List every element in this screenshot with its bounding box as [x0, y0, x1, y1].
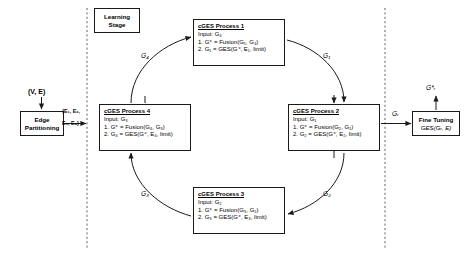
partition-output-label-line1: {E₁, E₂,: [62, 108, 80, 114]
cges-process-4-step1: 1. G⁺ = Fusion(G₄, G₃): [104, 124, 186, 132]
fine-tuning-box[interactable]: Fine Tuning GES(Gᵣ, E): [412, 111, 460, 136]
cges-process-4-title: cGES Process 4: [104, 108, 186, 116]
cges-process-1-box[interactable]: cGES Process 1 Input: G₄ 1. G⁺ = Fusion(…: [193, 19, 285, 66]
edge-label-to-process-1: G₄: [141, 52, 149, 59]
edge-partitioning-label-line2: Partitioning: [25, 124, 59, 131]
cges-process-2-box[interactable]: cGES Process 2 Input: G₁ 1. G⁺ = Fusion(…: [288, 104, 380, 151]
cges-process-4-input: Input: G₃: [104, 116, 186, 124]
fine-tuning-title: Fine Tuning: [419, 116, 454, 123]
input-graph-label: (V, E): [28, 88, 45, 95]
fine-tuning-input-label: Gᵣ: [392, 110, 398, 117]
diagram-canvas: (V, E) Edge Partitioning {E₁, E₂, E₃, E₄…: [0, 0, 470, 257]
cges-process-2-step1: 1. G⁺ = Fusion(G₂, G₁): [293, 124, 375, 132]
partition-output-label-line2: E₃, E₄}: [62, 120, 79, 126]
cges-process-1-title: cGES Process 1: [198, 23, 280, 31]
cges-process-3-step1: 1. G⁺ = Fusion(G₃, G₂): [198, 207, 280, 215]
cges-process-3-step2: 2. G₃ = GES(G⁺, E₃, limit): [198, 214, 280, 222]
cges-process-2-title: cGES Process 2: [293, 108, 375, 116]
arrow-proc4-to-proc1: [131, 37, 191, 103]
cges-process-4-step2: 2. G₄ = GES(G⁺, E₄, limit): [104, 131, 186, 139]
cges-process-3-box[interactable]: cGES Process 3 Input: G₂ 1. G⁺ = Fusion(…: [193, 187, 285, 234]
cges-process-2-step2: 2. G₂ = GES(G⁺, E₂, limit): [293, 131, 375, 139]
cges-process-3-input: Input: G₂: [198, 199, 280, 207]
edge-label-to-process-3: G₂: [323, 190, 331, 197]
cges-process-2-input: Input: G₁: [293, 116, 375, 124]
arrow-proc2-to-proc3: [288, 153, 344, 214]
cges-process-1-input: Input: G₄: [198, 31, 280, 39]
cges-process-4-box[interactable]: cGES Process 4 Input: G₃ 1. G⁺ = Fusion(…: [99, 104, 191, 151]
fine-tuning-formula: GES(Gᵣ, E): [421, 124, 452, 131]
learning-stage-label-line2: Stage: [109, 21, 126, 28]
final-output-label: G*ᵣ: [426, 84, 435, 91]
edge-partitioning-box[interactable]: Edge Partitioning: [20, 111, 64, 136]
arrow-proc3-to-proc4: [131, 153, 191, 216]
cges-process-3-title: cGES Process 3: [198, 191, 280, 199]
edge-label-to-process-2: G₁: [323, 52, 330, 59]
edge-label-to-process-4: G₃: [141, 190, 149, 197]
cges-process-1-step2: 2. G₁ = GES(G⁺, E₁, limit): [198, 46, 280, 54]
cges-process-1-step1: 1. G⁺ = Fusion(G₁, G₄): [198, 39, 280, 47]
edge-partitioning-label-line1: Edge: [34, 116, 49, 123]
learning-stage-box: Learning Stage: [94, 8, 140, 33]
arrow-proc1-to-proc2: [287, 40, 344, 102]
learning-stage-label-line1: Learning: [104, 13, 130, 20]
